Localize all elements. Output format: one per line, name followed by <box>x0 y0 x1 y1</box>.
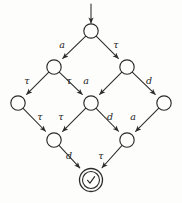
transition-edge-n5-n7 <box>136 108 159 131</box>
transition-label-e2: τ <box>24 75 30 86</box>
state-circle <box>84 24 98 38</box>
state-circle <box>84 96 98 110</box>
transition-label-e1: τ <box>113 39 119 50</box>
state-circle <box>157 96 171 110</box>
state-node[interactable] <box>84 96 98 110</box>
transition-edge-n2-n4 <box>100 72 122 94</box>
state-node[interactable] <box>157 96 171 110</box>
state-node[interactable] <box>47 60 61 74</box>
transition-label-e7: τ <box>58 111 64 122</box>
transition-label-e6: τ <box>37 111 43 122</box>
state-circle <box>120 133 134 147</box>
transition-label-e3: τ <box>66 75 72 86</box>
transition-label-e11: τ <box>98 150 104 161</box>
transition-label-e9: a <box>130 111 136 122</box>
state-node[interactable] <box>84 24 98 38</box>
state-circle <box>11 96 25 110</box>
automaton-canvas: aτττadττdadτ <box>0 0 182 203</box>
transition-edge-n4-n6 <box>63 108 86 131</box>
state-node[interactable] <box>120 133 134 147</box>
transition-edge-n0-n1 <box>63 36 86 58</box>
state-node[interactable] <box>47 133 61 147</box>
state-node[interactable] <box>11 96 25 110</box>
transition-edge-n1-n3 <box>27 72 49 94</box>
state-node[interactable] <box>120 60 134 74</box>
transition-label-e5: d <box>146 75 152 86</box>
nodes-layer <box>11 24 171 192</box>
accepting-state-node[interactable] <box>80 169 103 192</box>
transition-label-e0: a <box>59 39 65 50</box>
state-circle <box>120 60 134 74</box>
transition-label-e10: d <box>66 150 72 161</box>
state-circle <box>47 60 61 74</box>
transition-label-e4: a <box>83 75 89 86</box>
transition-edge-n7-n8 <box>102 146 122 168</box>
state-circle <box>47 133 61 147</box>
automaton-diagram: aτττadττdadτ <box>0 0 182 203</box>
transition-label-e8: d <box>107 111 113 122</box>
